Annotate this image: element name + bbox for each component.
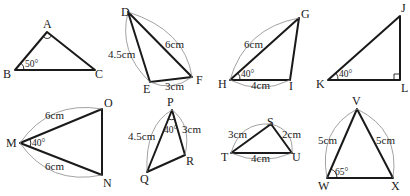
triangle-vwx: V W X 5cm 5cm 65°: [318, 94, 400, 193]
measure-label-tu: 4cm: [251, 152, 270, 164]
vertex-label-x: X: [391, 179, 400, 193]
vertex-label-d: D: [121, 5, 130, 19]
angle-arc-p: [168, 119, 175, 120]
vertex-label-g: G: [301, 7, 310, 21]
measure-label-mn: 6cm: [45, 160, 64, 172]
vertex-label-m: M: [6, 136, 17, 150]
angle-arc-m: [30, 139, 31, 147]
vertex-label-s: S: [267, 115, 274, 129]
vertex-label-l: L: [401, 81, 408, 95]
measure-label-de: 4.5cm: [108, 48, 136, 60]
angle-label-h: 40°: [241, 69, 255, 79]
vertex-label-q: Q: [140, 172, 149, 186]
angle-label-k: 40°: [339, 69, 353, 79]
angle-label-p: 40°: [164, 125, 178, 135]
vertex-label-b: B: [3, 67, 11, 81]
triangles-diagram: A B C 50° D E F 4.5cm 6cm 3cm G H I 6cm …: [0, 0, 410, 196]
angle-label-w: 65°: [335, 167, 349, 177]
measure-label-vx: 5cm: [376, 134, 395, 146]
vertex-label-c: C: [95, 67, 103, 81]
measure-label-df: 6cm: [165, 38, 184, 50]
measure-label-st: 3cm: [228, 128, 247, 140]
angle-label-b: 50°: [25, 59, 39, 69]
angle-arc-k: [336, 73, 338, 80]
vertex-label-n: N: [103, 176, 112, 190]
measure-label-vw: 5cm: [318, 134, 337, 146]
angle-label-m: 40°: [32, 138, 46, 148]
measure-label-gh: 6cm: [244, 38, 263, 50]
vertex-label-v: V: [352, 94, 361, 108]
vertex-label-r: R: [186, 154, 194, 168]
measure-label-su: 2cm: [282, 128, 301, 140]
vertex-label-k: K: [316, 77, 325, 91]
measure-label-hi: 4cm: [251, 79, 270, 91]
vertex-label-p: P: [167, 95, 174, 109]
vertex-label-a: A: [43, 17, 52, 31]
vertex-label-f: F: [196, 73, 203, 87]
vertex-label-e: E: [143, 82, 150, 96]
triangle-abc: A B C 50°: [3, 17, 103, 81]
triangle-mno: M O N 6cm 6cm 40°: [6, 96, 113, 190]
triangle-ghi: G H I 6cm 4cm 40°: [218, 7, 310, 93]
angle-arc-h: [238, 73, 240, 80]
triangle-jkl: J K L 40°: [316, 1, 408, 95]
triangle-stu: S T U 3cm 2cm 4cm: [221, 115, 301, 164]
angle-arc-b: [21, 63, 24, 70]
vertex-label-j: J: [401, 1, 406, 15]
triangle-pqr: P Q R 4.5cm 3cm 40°: [128, 95, 201, 186]
vertex-label-h: H: [218, 77, 227, 91]
vertex-label-o: O: [104, 96, 113, 110]
measure-label-ef: 3cm: [165, 80, 184, 92]
vertex-label-i: I: [289, 79, 293, 93]
measure-label-pr: 3cm: [182, 123, 201, 135]
vertex-label-u: U: [292, 150, 301, 164]
triangle-def: D E F 4.5cm 6cm 3cm: [108, 5, 203, 96]
vertex-label-t: T: [221, 150, 229, 164]
measure-label-mo: 6cm: [45, 109, 64, 121]
vertex-label-w: W: [318, 179, 330, 193]
measure-label-pq: 4.5cm: [128, 130, 156, 142]
